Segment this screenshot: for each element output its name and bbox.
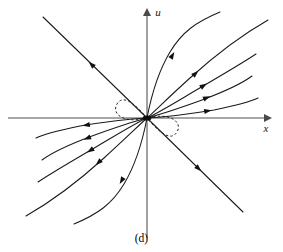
x-axis-label: x bbox=[263, 122, 269, 134]
trajectory-curve-ll-5-flat bbox=[36, 118, 147, 138]
u-axis-arrowhead bbox=[143, 8, 151, 16]
trajectory-curve-ll-4 bbox=[42, 118, 147, 160]
trajectory-curve-ur-1-steep bbox=[147, 12, 220, 118]
trajectory-curve-ll-1-steep bbox=[74, 118, 147, 224]
flow-arrow-curve-ur-3-0 bbox=[199, 81, 208, 89]
equilibrium-point bbox=[143, 115, 152, 120]
trajectory-curve-ll-2 bbox=[26, 118, 147, 216]
phase-portrait-figure: x u (d) bbox=[0, 0, 283, 252]
trajectory-curve-ur-4 bbox=[147, 76, 252, 118]
trajectory-curve-ur-5-flat bbox=[147, 98, 258, 118]
flow-arrow-curve-ll-4-0 bbox=[83, 135, 92, 143]
trajectory-curve-ur-2 bbox=[147, 20, 268, 118]
x-axis-arrowhead bbox=[264, 114, 272, 122]
flow-arrow-curve-ll-3-0 bbox=[86, 146, 95, 154]
flow-arrow-curve-ur-4-0 bbox=[202, 94, 211, 102]
trajectory-straight-lower-right bbox=[147, 118, 243, 212]
trajectory-straight-upper-left bbox=[43, 17, 147, 118]
figure-caption-wrap: (d) bbox=[0, 228, 283, 246]
figure-caption: (d) bbox=[135, 232, 148, 244]
phase-portrait-svg: x u bbox=[0, 0, 283, 252]
u-axis-label: u bbox=[155, 6, 161, 18]
